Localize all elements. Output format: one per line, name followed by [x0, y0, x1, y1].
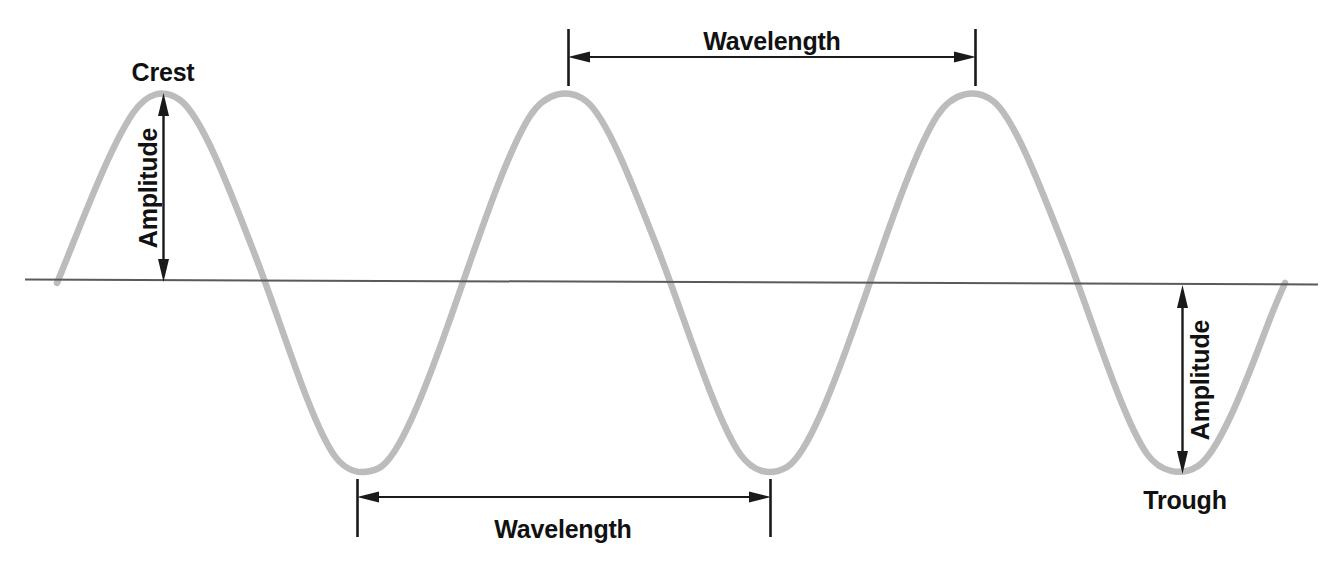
- wavelength-bottom-arrowhead-right: [749, 492, 771, 503]
- wavelength-bottom-arrowhead-left: [357, 492, 379, 503]
- wavelength-bottom-label: Wavelength: [494, 515, 631, 544]
- wave-diagram: Crest Wavelength Wavelength Trough Ampli…: [0, 0, 1340, 573]
- wave-diagram-canvas: [0, 0, 1340, 573]
- wavelength-top-arrowhead-right: [954, 52, 976, 63]
- amplitude-right-label: Amplitude: [1186, 320, 1215, 440]
- wavelength-top-label: Wavelength: [703, 27, 840, 56]
- amplitude-left-label: Amplitude: [134, 128, 163, 248]
- amplitude-right-arrowhead-top: [1177, 285, 1188, 308]
- amplitude-left-arrowhead-bottom: [158, 259, 169, 282]
- crest-label: Crest: [132, 58, 195, 87]
- trough-label: Trough: [1143, 486, 1227, 515]
- wavelength-top-arrowhead-left: [568, 52, 590, 63]
